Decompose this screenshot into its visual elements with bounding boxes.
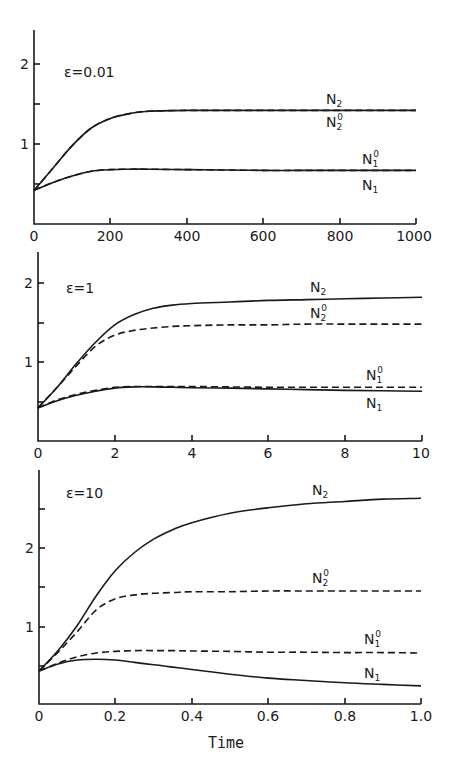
x-tick-label: 0 — [35, 708, 44, 724]
label-N2: N2 — [310, 279, 326, 297]
panel-3-curves — [39, 498, 421, 686]
label-N1: N1 — [366, 395, 382, 413]
panel-1-y-ticks — [34, 64, 40, 184]
x-tick-label: 4 — [188, 445, 197, 461]
label-N2-zero: N20 — [326, 112, 343, 132]
epsilon-label: ε=0.01 — [64, 64, 114, 80]
x-tick-label: 8 — [341, 445, 350, 461]
panel-3-y-ticks — [39, 509, 45, 666]
label-N1-zero: N10 — [362, 149, 379, 169]
x-axis-title: Time — [208, 734, 244, 752]
panel-2-curves — [38, 297, 422, 408]
x-tick-label: 800 — [327, 228, 354, 244]
x-tick-label: 0.4 — [181, 708, 203, 724]
label-N2: N2 — [326, 91, 342, 109]
curve-N2 — [34, 110, 416, 190]
panel-2-y-ticks — [38, 283, 44, 402]
y-tick-label-2: 2 — [25, 540, 34, 556]
label-N2-zero: N20 — [312, 568, 329, 588]
y-tick-label-1: 1 — [20, 136, 29, 152]
y-tick-label-2: 2 — [24, 275, 33, 291]
curve-N1-zero — [38, 386, 422, 407]
x-tick-label: 1.0 — [410, 708, 432, 724]
x-tick-label: 400 — [174, 228, 201, 244]
panel-1-x-ticks — [110, 218, 416, 224]
x-tick-label: 0.2 — [104, 708, 126, 724]
curve-N1-zero — [34, 169, 416, 190]
label-N1: N1 — [362, 177, 378, 195]
label-N1: N1 — [364, 665, 380, 683]
y-tick-label-2: 2 — [20, 56, 29, 72]
panel-2-x-ticks — [115, 435, 422, 441]
x-tick-label: 0 — [30, 228, 39, 244]
panel-epsilon-0.01: 2 1 0 200 400 600 800 1000 ε=0.01 N2 N20… — [20, 30, 432, 244]
x-tick-label: 600 — [250, 228, 277, 244]
x-tick-label: 1000 — [396, 228, 432, 244]
panel-epsilon-1: 2 1 0 2 4 6 8 10 ε=1 N2 N20 N10 N1 — [24, 252, 430, 461]
panel-2-axes — [38, 252, 422, 441]
x-tick-label: 10 — [412, 445, 430, 461]
epsilon-label: ε=1 — [66, 280, 94, 296]
label-N2-zero: N20 — [310, 303, 327, 323]
epsilon-label: ε=10 — [66, 485, 103, 501]
label-N1-zero: N10 — [364, 629, 381, 649]
y-tick-label-1: 1 — [24, 354, 33, 370]
panel-3-x-ticks — [115, 698, 421, 704]
curve-N2-zero — [38, 324, 422, 408]
curve-N1 — [34, 169, 416, 190]
x-tick-label: 6 — [264, 445, 273, 461]
x-tick-label: 200 — [97, 228, 124, 244]
figure: 2 1 0 200 400 600 800 1000 ε=0.01 N2 N20… — [0, 0, 450, 779]
curve-N2-zero — [34, 110, 416, 190]
x-tick-label: 0.8 — [334, 708, 356, 724]
label-N2: N2 — [312, 482, 328, 500]
y-tick-label-1: 1 — [25, 619, 34, 635]
panel-1-curves — [34, 110, 416, 190]
x-tick-label: 2 — [111, 445, 120, 461]
label-N1-zero: N10 — [366, 365, 383, 385]
panel-1-axes — [34, 30, 416, 224]
x-tick-label: 0.6 — [257, 708, 279, 724]
x-tick-label: 0 — [34, 445, 43, 461]
panel-epsilon-10: 2 1 0 0.2 0.4 0.6 0.8 1.0 ε=10 N2 N20 N1… — [25, 470, 432, 724]
